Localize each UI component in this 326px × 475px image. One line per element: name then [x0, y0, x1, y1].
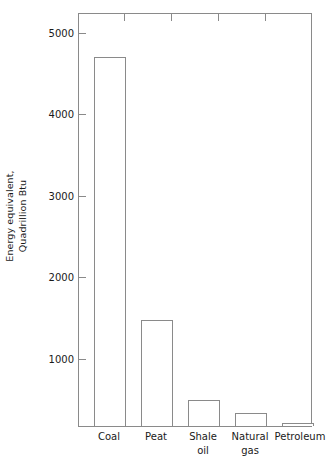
y-tick-label-3000: 3000 [49, 190, 74, 203]
y-tick-1000: 1000 [79, 359, 86, 360]
y-axis-label-container: Energy equivalent, Quadrillion Btu [0, 0, 46, 475]
top-tick-1 [124, 14, 125, 21]
y-tick-label-4000: 4000 [49, 108, 74, 121]
y-tick-label-1000: 1000 [49, 353, 74, 366]
y-tick-3000: 3000 [79, 196, 86, 197]
y-axis-label: Energy equivalent, Quadrillion Btu [4, 96, 44, 336]
bar-chart-figure: Energy equivalent, Quadrillion Btu 5000 … [0, 0, 326, 475]
bar-coal [94, 57, 126, 426]
bar-petroleum [282, 423, 314, 426]
plot-area: 5000 4000 3000 2000 1000 [78, 13, 312, 427]
top-tick-3 [218, 14, 219, 21]
bar-shale-oil [188, 400, 220, 426]
y-tick-5000: 5000 [79, 33, 86, 34]
bar-peat [141, 320, 173, 426]
top-tick-4 [265, 14, 266, 21]
x-label-petroleum: Petroleum [257, 430, 326, 444]
y-tick-label-2000: 2000 [49, 271, 74, 284]
top-tick-2 [171, 14, 172, 21]
y-tick-2000: 2000 [79, 277, 86, 278]
y-tick-label-5000: 5000 [49, 27, 74, 40]
x-axis-labels: Coal Peat Shale oil Natural gas Petroleu… [78, 430, 312, 475]
y-tick-4000: 4000 [79, 114, 86, 115]
bar-natural-gas [235, 413, 267, 426]
